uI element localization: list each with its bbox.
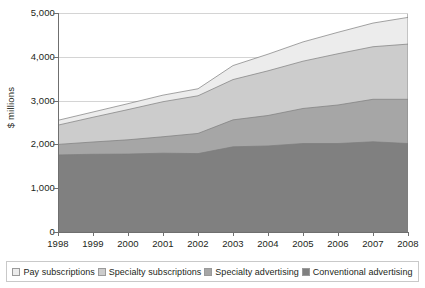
y-axis-tick-label: 5,000 bbox=[3, 8, 55, 18]
x-axis-tick-mark bbox=[303, 232, 304, 236]
x-axis-tick-mark bbox=[163, 232, 164, 236]
y-axis-title: $ millions bbox=[5, 72, 16, 144]
x-axis-tick-label: 2004 bbox=[248, 238, 288, 249]
y-axis-tick-mark bbox=[53, 144, 58, 145]
x-axis-tick-mark bbox=[198, 232, 199, 236]
legend-color-swatch bbox=[98, 268, 106, 276]
x-axis-tick-mark bbox=[233, 232, 234, 236]
legend-item-label: Pay subscriptions bbox=[23, 267, 94, 277]
y-axis-tick-label: 1,000 bbox=[3, 183, 55, 193]
y-axis-tick-label: 4,000 bbox=[3, 52, 55, 62]
legend-item[interactable]: Specialty subscriptions bbox=[98, 267, 202, 277]
x-axis-tick-mark bbox=[338, 232, 339, 236]
legend-item[interactable]: Pay subscriptions bbox=[12, 267, 94, 277]
area-band-conventional-advertising bbox=[58, 142, 408, 232]
x-axis-tick-label: 2005 bbox=[283, 238, 323, 249]
x-axis-tick-label: 1998 bbox=[38, 238, 78, 249]
x-axis-tick-mark bbox=[128, 232, 129, 236]
plot-area bbox=[58, 13, 408, 232]
legend-item-label: Conventional advertising bbox=[313, 267, 413, 277]
x-axis-tick-label: 2003 bbox=[213, 238, 253, 249]
x-axis-tick-label: 2008 bbox=[388, 238, 425, 249]
y-axis-line bbox=[58, 13, 59, 232]
x-axis-tick-label: 2001 bbox=[143, 238, 183, 249]
y-axis-tick-mark bbox=[53, 57, 58, 58]
x-axis-tick-mark bbox=[408, 232, 409, 236]
y-axis-tick-mark bbox=[53, 101, 58, 102]
y-axis-tick-mark bbox=[53, 13, 58, 14]
y-axis-tick-mark bbox=[53, 188, 58, 189]
x-axis-tick-label: 1999 bbox=[73, 238, 113, 249]
legend-item-label: Specialty advertising bbox=[215, 267, 299, 277]
chart-screenshot: 01,0002,0003,0004,0005,000 1998199920002… bbox=[0, 0, 425, 288]
area-series-group bbox=[58, 13, 408, 232]
chart-legend: Pay subscriptionsSpecialty subscriptions… bbox=[6, 261, 419, 282]
x-axis-tick-mark bbox=[93, 232, 94, 236]
stacked-area-chart: 01,0002,0003,0004,0005,000 1998199920002… bbox=[0, 0, 425, 252]
legend-item[interactable]: Specialty advertising bbox=[204, 267, 299, 277]
y-axis-tick-label: 0 bbox=[3, 227, 55, 237]
x-axis-tick-label: 2000 bbox=[108, 238, 148, 249]
legend-color-swatch bbox=[302, 268, 310, 276]
x-axis-tick-label: 2006 bbox=[318, 238, 358, 249]
legend-item-label: Specialty subscriptions bbox=[109, 267, 202, 277]
x-axis-tick-mark bbox=[268, 232, 269, 236]
x-axis-tick-label: 2007 bbox=[353, 238, 393, 249]
x-axis-tick-label: 2002 bbox=[178, 238, 218, 249]
x-axis-tick-mark bbox=[373, 232, 374, 236]
x-axis-tick-mark bbox=[58, 232, 59, 236]
legend-item[interactable]: Conventional advertising bbox=[302, 267, 413, 277]
legend-color-swatch bbox=[12, 268, 20, 276]
legend-color-swatch bbox=[204, 268, 212, 276]
